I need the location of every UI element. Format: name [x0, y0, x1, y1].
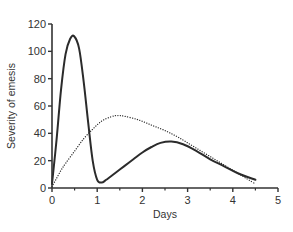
x-tick-label: 0: [49, 194, 55, 206]
y-tick-label: 40: [34, 127, 46, 139]
x-ticks: 012345: [49, 188, 281, 206]
chart: 020406080100120 012345 Days Severity of …: [0, 0, 293, 232]
x-tick-label: 3: [185, 194, 191, 206]
x-tick-label: 5: [275, 194, 281, 206]
plot-area: 020406080100120 012345: [28, 18, 281, 206]
y-tick-label: 0: [40, 182, 46, 194]
x-axis-title: Days: [153, 208, 177, 220]
dotted-curve: [52, 116, 255, 187]
y-tick-label: 60: [34, 100, 46, 112]
y-axis-title: Severity of emesis: [5, 63, 17, 149]
x-tick-label: 4: [230, 194, 236, 206]
x-tick-label: 2: [139, 194, 145, 206]
solid-curve: [52, 36, 255, 184]
y-tick-label: 20: [34, 155, 46, 167]
y-ticks: 020406080100120: [28, 18, 52, 194]
x-tick-label: 1: [94, 194, 100, 206]
curves: [52, 36, 255, 187]
y-tick-label: 80: [34, 73, 46, 85]
y-tick-label: 100: [28, 45, 46, 57]
y-tick-label: 120: [28, 18, 46, 30]
